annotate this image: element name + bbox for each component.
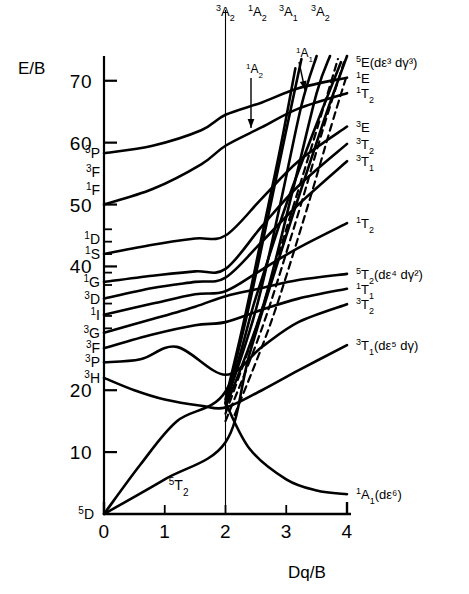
x-axis-tick-label: 3 [281, 521, 292, 542]
y-axis-tick-label: 10 [70, 442, 92, 463]
x-axis-tick-label: 1 [159, 521, 170, 542]
y-axis-title: E/B [18, 59, 45, 78]
x-axis-title: Dq/B [288, 563, 326, 582]
tanabe-sugano-figure: 102040506070 01234 3P3F1F1D1S1G3D1I3G3F3… [0, 0, 469, 594]
x-axis-tick-label: 2 [220, 521, 231, 542]
x-axis-tick-label: 0 [98, 521, 109, 542]
diagram-canvas: 102040506070 01234 3P3F1F1D1S1G3D1I3G3F3… [0, 0, 469, 594]
y-axis-tick-label: 50 [70, 195, 92, 216]
y-axis-tick-label: 20 [70, 380, 92, 401]
x-axis-tick-label: 4 [341, 521, 352, 542]
right-term-label-0: 5E(dε³ dγ³) [356, 54, 417, 70]
y-axis-tick-label: 70 [70, 71, 92, 92]
